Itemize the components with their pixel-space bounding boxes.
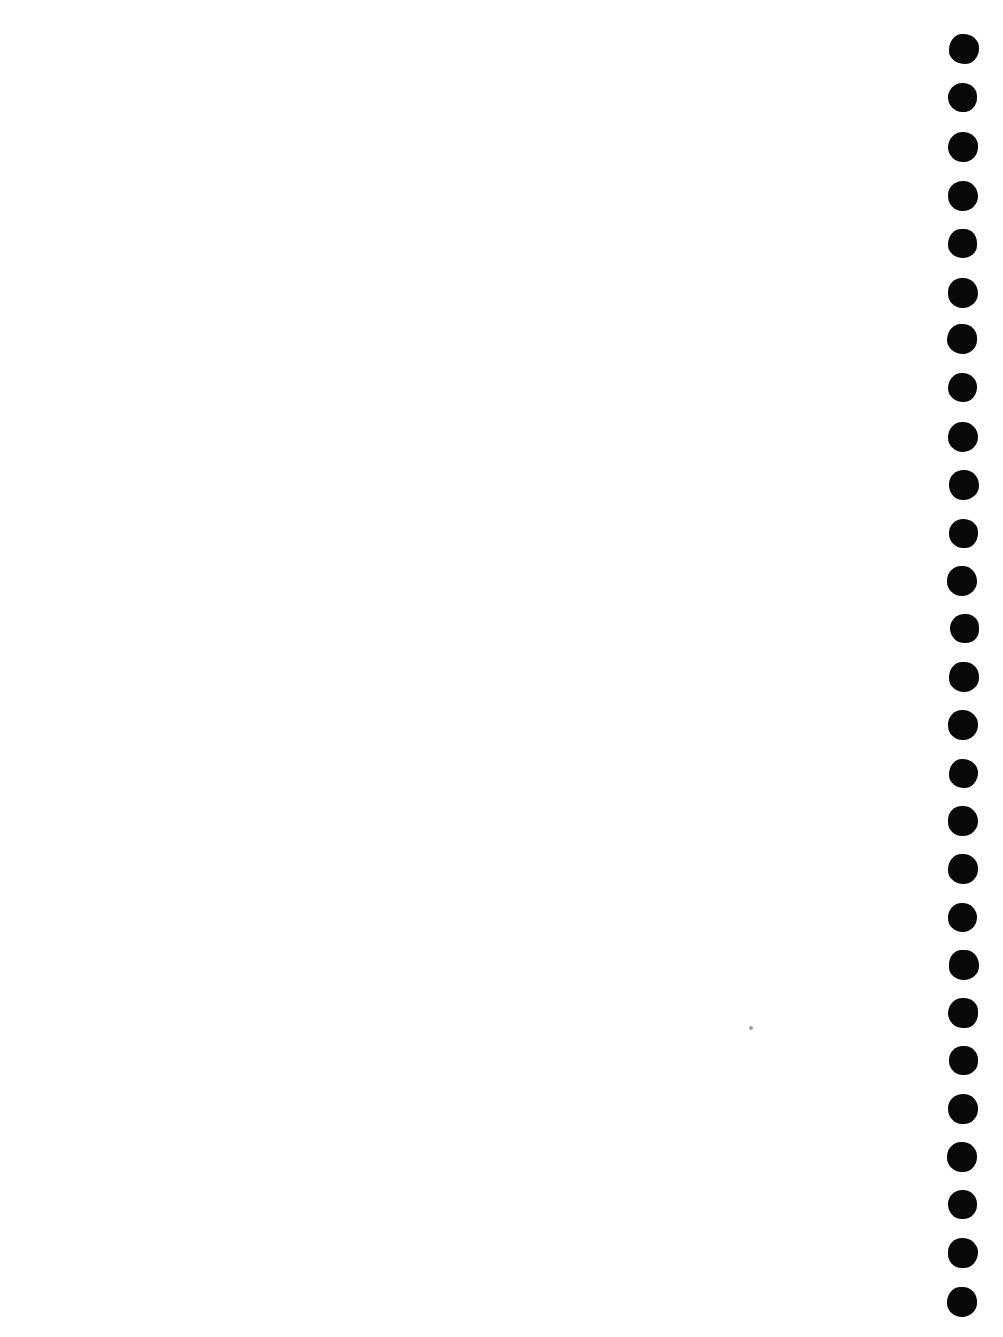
binding-mark <box>947 1142 977 1172</box>
scanned-page <box>0 0 1003 1337</box>
binding-mark <box>950 614 979 643</box>
binding-mark-column <box>948 0 1003 1337</box>
binding-mark <box>949 950 979 980</box>
binding-mark <box>948 854 978 884</box>
binding-mark <box>947 566 977 596</box>
binding-mark <box>947 324 977 354</box>
binding-mark <box>948 229 977 258</box>
binding-mark <box>949 759 978 788</box>
binding-mark <box>948 1238 978 1268</box>
binding-mark <box>949 470 979 500</box>
binding-mark <box>949 662 979 692</box>
binding-mark <box>948 422 978 452</box>
binding-mark <box>948 1190 977 1219</box>
binding-mark <box>948 83 977 112</box>
scan-speck-artifact <box>749 1026 753 1030</box>
binding-mark <box>948 998 978 1028</box>
binding-mark <box>948 181 978 211</box>
binding-mark <box>948 710 978 740</box>
binding-mark <box>948 373 977 402</box>
binding-mark <box>948 903 977 932</box>
binding-mark <box>949 1046 978 1075</box>
binding-mark <box>949 519 978 548</box>
page-surface <box>0 0 1003 1337</box>
binding-mark <box>948 806 978 836</box>
binding-mark <box>949 34 979 64</box>
binding-mark <box>948 132 978 162</box>
binding-mark <box>948 1094 978 1124</box>
binding-mark <box>947 1287 977 1317</box>
binding-mark <box>948 278 978 308</box>
